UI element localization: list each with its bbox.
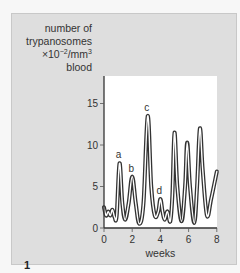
y-tick-label: 0 <box>92 223 98 234</box>
y-tick-label: 5 <box>92 181 98 192</box>
x-tick-label: 2 <box>129 234 135 245</box>
figure-number: 1 <box>24 259 30 271</box>
x-axis-label: weeks <box>145 247 176 259</box>
peak-label-a: a <box>116 149 122 160</box>
x-tick-label: 4 <box>158 234 164 245</box>
x-tick-label: 0 <box>101 234 107 245</box>
y-tick-label: 10 <box>87 140 99 151</box>
peak-label-b: b <box>128 163 134 174</box>
x-tick-label: 6 <box>186 234 192 245</box>
x-tick-label: 8 <box>214 234 220 245</box>
line-chart: 05101502468weeksabcd <box>12 14 238 266</box>
y-tick-label: 15 <box>87 98 99 109</box>
peak-label-d: d <box>157 185 163 196</box>
peak-label-c: c <box>144 102 149 113</box>
figure-panel: number of trypanosomes ×10−2/mm3 blood 0… <box>11 13 237 265</box>
